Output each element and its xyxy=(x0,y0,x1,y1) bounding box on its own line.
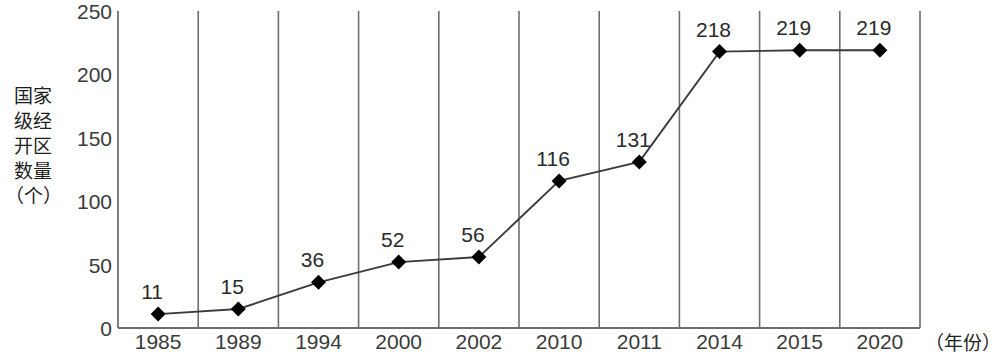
x-axis-tick-label: 1989 xyxy=(193,331,283,353)
data-point-label: 219 xyxy=(759,17,829,38)
data-point-label: 56 xyxy=(438,224,508,245)
x-axis-tick-label: 2000 xyxy=(354,331,444,353)
data-point-label: 131 xyxy=(598,129,668,150)
data-point-marker xyxy=(231,301,246,316)
x-axis-tick-label: 1994 xyxy=(274,331,364,353)
data-point-marker xyxy=(391,255,406,270)
data-point-label: 15 xyxy=(197,276,267,297)
data-point-label: 52 xyxy=(358,229,428,250)
data-point-marker xyxy=(311,275,326,290)
x-axis-tick-label: 2014 xyxy=(675,331,765,353)
data-point-marker xyxy=(712,44,727,59)
x-axis-tick-label: 2002 xyxy=(434,331,524,353)
data-point-marker xyxy=(872,43,887,58)
x-axis-tick-label: 1985 xyxy=(113,331,203,353)
x-axis-tick-label: 2015 xyxy=(755,331,845,353)
x-axis-title: （年份） xyxy=(925,332,1001,354)
data-point-marker xyxy=(151,307,166,322)
data-point-label: 36 xyxy=(278,249,348,270)
x-axis-tick-label: 2010 xyxy=(514,331,604,353)
plot-area xyxy=(0,0,1007,362)
data-point-marker xyxy=(792,43,807,58)
data-point-label: 116 xyxy=(518,148,588,169)
line-chart: 国家级经开区数量（个） 050100150200250 111536525611… xyxy=(0,0,1007,362)
x-axis-tick-label: 2011 xyxy=(594,331,684,353)
data-point-label: 11 xyxy=(117,281,187,302)
data-point-label: 218 xyxy=(679,19,749,40)
data-point-label: 219 xyxy=(839,17,909,38)
x-axis-tick-label: 2020 xyxy=(835,331,925,353)
data-point-marker xyxy=(632,154,647,169)
